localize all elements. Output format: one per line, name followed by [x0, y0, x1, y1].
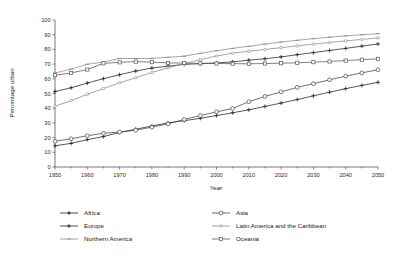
x-tick-label: 1950: [49, 172, 61, 178]
series-marker: [312, 43, 315, 46]
series-oceania: [53, 57, 379, 77]
y-tick-label: 60: [44, 76, 50, 82]
legend-item-europe[interactable]: Europe: [60, 222, 105, 229]
series-line: [55, 34, 378, 73]
series-marker: [215, 110, 219, 114]
series-marker: [263, 62, 266, 65]
series-europe: [53, 42, 380, 94]
percentage-urban-line-chart: 0102030405060708090100 19501960197019801…: [0, 0, 394, 259]
series-marker: [167, 66, 170, 69]
y-tick-label: 40: [44, 105, 50, 111]
x-tick-label: 2000: [210, 172, 222, 178]
x-tick-label: 2050: [372, 172, 384, 178]
series-marker: [312, 61, 315, 64]
series-marker: [151, 71, 154, 74]
series-marker: [280, 46, 283, 49]
series-marker: [150, 125, 154, 129]
legend-item-africa[interactable]: Africa: [60, 209, 100, 216]
series-marker: [69, 137, 73, 141]
series-marker: [118, 61, 121, 64]
series-marker: [296, 45, 299, 48]
x-axis-ticks: 1950196019701980199020002010202020302040…: [49, 167, 384, 178]
x-tick-label: 1980: [146, 172, 158, 178]
series-marker: [102, 62, 105, 65]
y-tick-label: 20: [44, 135, 50, 141]
series-marker: [231, 107, 235, 111]
series-marker: [328, 60, 331, 63]
legend-item-northern-america[interactable]: Northern America: [60, 235, 133, 242]
x-tick-label: 2020: [275, 172, 287, 178]
series-marker: [199, 58, 202, 61]
series-marker: [231, 62, 234, 65]
series-marker: [328, 78, 332, 82]
series-latin-america-and-the-caribbean: [54, 37, 380, 108]
series-marker: [134, 128, 138, 132]
series-marker: [199, 62, 202, 65]
y-axis-title: Percentage urban: [8, 68, 15, 118]
y-tick-label: 80: [44, 46, 50, 52]
x-tick-label: 1960: [81, 172, 93, 178]
legend-item-label: Oceania: [236, 235, 260, 242]
legend-item-label: Latin America and the Caribbean: [236, 222, 327, 229]
x-axis-title: Year: [210, 184, 223, 191]
chart-series-group: [53, 34, 380, 148]
series-marker: [328, 41, 331, 44]
legend-item-oceania[interactable]: Oceania: [212, 235, 260, 242]
legend-item-label: Asia: [236, 209, 249, 216]
series-marker: [376, 68, 380, 72]
series-marker: [295, 85, 299, 89]
series-marker: [312, 82, 316, 86]
series-marker: [247, 100, 251, 104]
legend-item-asia[interactable]: Asia: [212, 209, 249, 216]
x-tick-label: 2040: [339, 172, 351, 178]
series-marker: [70, 99, 73, 102]
x-tick-label: 2030: [307, 172, 319, 178]
series-marker: [182, 118, 186, 122]
chart-legend: AfricaEuropeNorthern AmericaAsiaLatin Am…: [60, 209, 327, 242]
x-tick-label: 1990: [178, 172, 190, 178]
y-tick-label: 50: [44, 91, 50, 97]
series-marker: [231, 52, 234, 55]
series-marker: [53, 74, 56, 77]
legend-marker-icon: [220, 225, 223, 228]
legend-item-label: Europe: [84, 222, 105, 229]
series-marker: [118, 130, 122, 134]
legend-item-label: Northern America: [84, 235, 133, 242]
series-marker: [280, 62, 283, 65]
series-marker: [248, 50, 251, 53]
series-marker: [376, 57, 379, 60]
y-tick-label: 90: [44, 32, 50, 38]
y-tick-label: 100: [41, 17, 50, 23]
series-marker: [86, 68, 89, 71]
series-marker: [134, 76, 137, 79]
series-marker: [344, 40, 347, 43]
legend-marker-icon: [219, 237, 222, 240]
series-marker: [150, 61, 153, 64]
y-tick-label: 30: [44, 120, 50, 126]
series-marker: [134, 60, 137, 63]
series-marker: [215, 62, 218, 65]
series-marker: [279, 90, 283, 94]
series-marker: [118, 81, 121, 84]
y-axis-ticks: 0102030405060708090100: [41, 17, 55, 170]
series-marker: [53, 139, 57, 143]
y-tick-label: 0: [47, 164, 50, 170]
series-marker: [166, 122, 170, 126]
series-marker: [198, 114, 202, 118]
series-northern-america: [53, 34, 380, 73]
series-marker: [70, 71, 73, 74]
series-line: [55, 38, 378, 106]
series-marker: [54, 105, 57, 108]
series-marker: [360, 71, 364, 75]
series-marker: [264, 48, 267, 51]
series-marker: [247, 62, 250, 65]
series-marker: [86, 93, 89, 96]
series-marker: [296, 61, 299, 64]
x-tick-label: 1970: [113, 172, 125, 178]
series-marker: [215, 55, 218, 58]
urbanization-chart-figure: 0102030405060708090100 19501960197019801…: [0, 0, 394, 259]
series-marker: [102, 131, 106, 135]
series-marker: [183, 61, 186, 64]
series-marker: [344, 74, 348, 78]
legend-item-latin-america-and-the-caribbean[interactable]: Latin America and the Caribbean: [212, 222, 327, 229]
